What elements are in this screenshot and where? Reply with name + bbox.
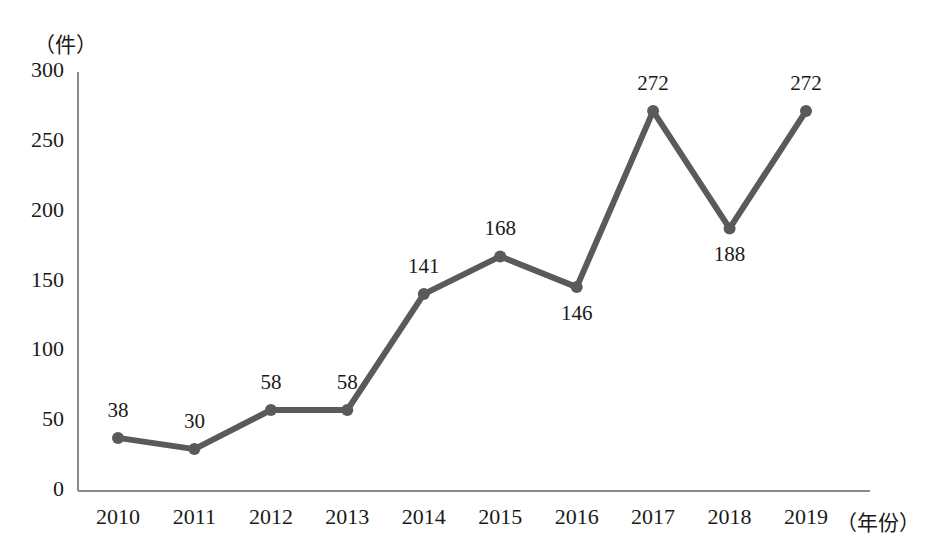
x-axis-tick-label: 2012 bbox=[236, 504, 306, 530]
data-point-label: 141 bbox=[394, 254, 454, 279]
data-point-marker bbox=[265, 404, 277, 416]
y-axis-tick-label: 200 bbox=[12, 197, 64, 223]
y-axis-tick-label: 50 bbox=[12, 406, 64, 432]
data-point-marker bbox=[647, 105, 659, 117]
data-point-label: 146 bbox=[547, 301, 607, 326]
x-axis-unit-label: （年份） bbox=[836, 506, 920, 536]
data-point-marker bbox=[724, 222, 736, 234]
y-axis-tick-label: 250 bbox=[12, 127, 64, 153]
x-axis-tick-label: 2013 bbox=[312, 504, 382, 530]
data-point-marker bbox=[188, 443, 200, 455]
x-axis-tick-label: 2015 bbox=[465, 504, 535, 530]
x-axis-tick-label: 2019 bbox=[771, 504, 841, 530]
data-series-line bbox=[118, 111, 806, 449]
data-point-marker bbox=[341, 404, 353, 416]
data-point-marker bbox=[571, 281, 583, 293]
y-axis-tick-label: 0 bbox=[12, 476, 64, 502]
x-axis-tick-label: 2010 bbox=[83, 504, 153, 530]
data-point-label: 30 bbox=[164, 409, 224, 434]
x-axis-tick-label: 2011 bbox=[159, 504, 229, 530]
data-point-label: 58 bbox=[241, 370, 301, 395]
y-axis-tick-label: 150 bbox=[12, 267, 64, 293]
data-point-marker bbox=[112, 432, 124, 444]
data-point-marker bbox=[800, 105, 812, 117]
data-point-label: 58 bbox=[317, 370, 377, 395]
data-point-label: 188 bbox=[700, 242, 760, 267]
line-chart: （件） （年份） 050100150200250300 201020112012… bbox=[0, 0, 929, 560]
y-axis-unit-label: （件） bbox=[34, 28, 97, 58]
x-axis-tick-label: 2018 bbox=[695, 504, 765, 530]
x-axis-tick-label: 2016 bbox=[542, 504, 612, 530]
data-point-marker bbox=[418, 288, 430, 300]
y-axis-tick-label: 300 bbox=[12, 57, 64, 83]
data-point-marker bbox=[494, 250, 506, 262]
data-point-label: 272 bbox=[776, 71, 836, 96]
data-markers bbox=[112, 105, 812, 455]
x-axis-tick-label: 2017 bbox=[618, 504, 688, 530]
data-point-label: 168 bbox=[470, 216, 530, 241]
data-point-label: 38 bbox=[88, 398, 148, 423]
x-axis-tick-label: 2014 bbox=[389, 504, 459, 530]
y-axis-tick-label: 100 bbox=[12, 336, 64, 362]
data-point-label: 272 bbox=[623, 71, 683, 96]
